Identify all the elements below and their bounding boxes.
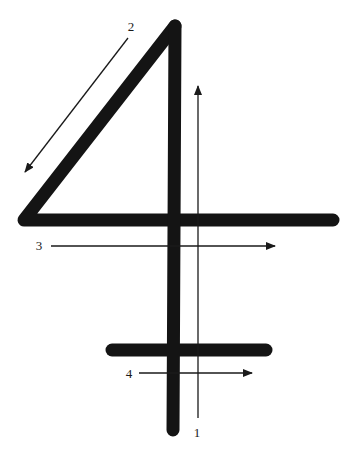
stroke-order-arrows: 1234 xyxy=(25,19,275,440)
numeral-strokes xyxy=(24,26,333,430)
stroke-order-arrow-1: 1 xyxy=(194,86,201,440)
stroke-order-label: 3 xyxy=(36,238,43,253)
numeral-four-stroke-diagram: 1234 xyxy=(0,0,353,456)
stroke-order-arrow-3: 3 xyxy=(36,238,275,253)
stroke-order-label: 2 xyxy=(128,19,135,34)
stroke-order-label: 4 xyxy=(126,366,133,381)
stroke-order-label: 1 xyxy=(194,425,201,440)
stroke-main-vertical xyxy=(173,26,175,430)
stroke-order-arrow-4: 4 xyxy=(126,366,252,381)
